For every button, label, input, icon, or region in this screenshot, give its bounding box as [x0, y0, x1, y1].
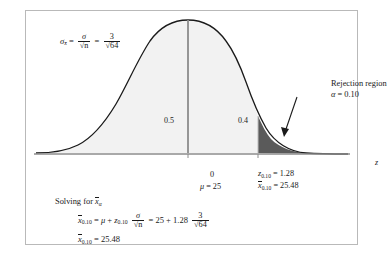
line1-equals: = [94, 215, 99, 225]
area-label-right: 0.4 [238, 117, 248, 125]
tick-label-xbar-critical: x0.10 = 25.48 [258, 182, 299, 191]
figure-frame: σx̄ = σ √n = 3 √64 0.5 0.4 Rejection reg… [25, 10, 358, 245]
xbar-critical-subscript: 0.10 [262, 185, 272, 191]
solving-heading-xbar: x [95, 198, 99, 206]
fraction-denominator: √n [78, 41, 91, 50]
fraction-numerator-value: 3 [104, 33, 121, 41]
line1-plus: + [107, 215, 112, 225]
equals-sign: = [69, 36, 74, 46]
xbar-symbol: x [258, 182, 262, 190]
rejection-arrow-head [281, 127, 289, 137]
mu-value: 25 [213, 182, 221, 191]
solving-heading: Solving for xα [55, 198, 102, 207]
rejection-arrow-shaft [285, 97, 297, 132]
axis-label-z: z [375, 159, 378, 167]
line1-frac-num: σ [132, 212, 145, 220]
line2-xbar-symbol: x [78, 235, 82, 244]
line1-frac-den: √n [132, 220, 145, 229]
tick-label-mu: μ = 25 [200, 183, 221, 191]
area-label-left: 0.5 [164, 117, 174, 125]
solving-heading-prefix: Solving for [55, 197, 95, 206]
line1-plus-2: + [166, 215, 171, 225]
line1-fraction-sigma-sqrtn: σ √n [132, 212, 145, 230]
line1-mu-value: 25 [155, 215, 164, 225]
line2-equals: = [94, 234, 99, 244]
line1-z-subscript: 0.10 [118, 219, 128, 225]
line1-equals-2: = [149, 215, 154, 225]
formula-standard-error: σx̄ = σ √n = 3 √64 [60, 33, 122, 51]
tick-label-zero: 0 [210, 171, 214, 179]
rejection-region-label: Rejection region α = 0.10 [331, 80, 387, 100]
fraction-sigma-over-sqrtn: σ √n [78, 33, 91, 51]
equals-sign-2: = [95, 36, 100, 46]
rejection-alpha-value: 0.10 [344, 90, 359, 99]
line1-mu: μ [101, 215, 105, 225]
z-critical-value: 1.28 [280, 169, 294, 178]
line2-result: 25.48 [101, 234, 120, 244]
line1-z-value: 1.28 [173, 215, 188, 225]
rejection-region-title: Rejection region [331, 79, 387, 88]
line1-frac2-den: √64 [192, 220, 209, 229]
fraction-denominator-value: √64 [104, 41, 121, 50]
z-critical-subscript: 0.10 [261, 173, 271, 179]
line1-xbar-subscript: 0.10 [82, 219, 92, 225]
formula-solve-line-2: x0.10 = 25.48 [78, 235, 120, 245]
formula-solve-line-1: x0.10 = μ + z0.10 σ √n = 25 + 1.28 3 √64 [78, 212, 211, 230]
solving-heading-subscript: α [99, 201, 102, 207]
rejection-alpha-text: α = 0.10 [331, 91, 387, 99]
tick-label-z-critical: z0.10 = 1.28 [258, 170, 294, 179]
line1-frac2-num: 3 [192, 212, 209, 220]
fraction-numerator: σ [78, 33, 91, 41]
line1-fraction-three-sqrt64: 3 √64 [192, 212, 209, 230]
xbar-critical-value: 25.48 [280, 181, 298, 190]
sigma-xbar-subscript: x̄ [64, 40, 67, 46]
line1-xbar-symbol: x [78, 216, 82, 225]
fraction-three-over-sqrt64: 3 √64 [104, 33, 121, 51]
line2-xbar-subscript: 0.10 [82, 239, 92, 245]
